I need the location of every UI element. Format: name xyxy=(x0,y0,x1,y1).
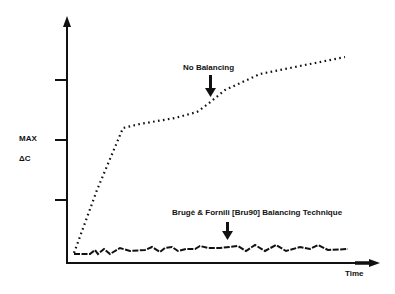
arrow-no-balancing-icon xyxy=(205,75,216,97)
annotation-bru90: Brugè & Fornili [Bru90] Balancing Techni… xyxy=(172,208,342,217)
y-label-max: MAX xyxy=(19,134,37,143)
y-ticks xyxy=(55,80,67,200)
y-label-delta-c: ΔC xyxy=(19,154,31,163)
annotation-no-balancing: No Balancing xyxy=(183,63,234,72)
arrow-bru90-icon xyxy=(222,222,233,240)
series-bru90 xyxy=(74,245,348,254)
x-axis-label: Time xyxy=(345,269,364,278)
y-axis-arrow-icon xyxy=(63,16,71,27)
chart-canvas xyxy=(0,0,395,294)
